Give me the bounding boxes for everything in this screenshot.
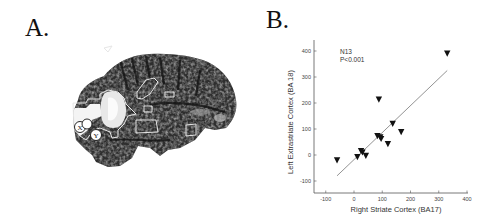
y-tick-label: 400 bbox=[302, 48, 311, 54]
annotation-p: P<0.001 bbox=[340, 56, 365, 63]
data-point-marker bbox=[334, 157, 340, 163]
data-point-marker bbox=[390, 121, 396, 127]
y-tick-label: 0 bbox=[308, 152, 311, 158]
y-tick-label: 300 bbox=[302, 74, 311, 80]
data-point-marker bbox=[354, 154, 360, 160]
x-tick-label: 100 bbox=[378, 196, 387, 202]
scatter-plot: -1000100200300400-1000100200300400 N13 P… bbox=[0, 0, 495, 222]
y-axis-title: Left Extrastriate Cortex (BA 18) bbox=[286, 70, 295, 174]
annotation-n: N13 bbox=[340, 48, 352, 55]
y-tick-label: 100 bbox=[302, 126, 311, 132]
data-point-marker bbox=[385, 141, 391, 147]
x-axis-title: Right Striate Cortex (BA17) bbox=[351, 205, 442, 214]
y-tick-label: 200 bbox=[302, 100, 311, 106]
data-point-marker bbox=[444, 51, 450, 57]
x-tick-label: 400 bbox=[462, 196, 471, 202]
data-point-marker bbox=[378, 136, 384, 142]
plot-axes: -1000100200300400-1000100200300400 bbox=[300, 40, 472, 202]
data-point-marker bbox=[398, 129, 404, 135]
x-tick-label: 300 bbox=[434, 196, 443, 202]
data-point-marker bbox=[363, 153, 369, 159]
x-tick-label: 0 bbox=[352, 196, 355, 202]
x-tick-label: 200 bbox=[406, 196, 415, 202]
data-point-marker bbox=[376, 97, 382, 103]
y-tick-label: -100 bbox=[300, 178, 311, 184]
x-tick-label: -100 bbox=[320, 196, 331, 202]
data-points bbox=[334, 51, 451, 164]
